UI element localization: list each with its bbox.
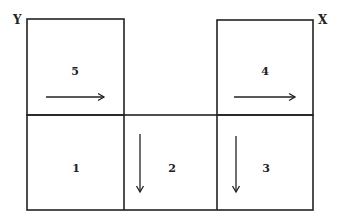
corner-label-x: X [318, 13, 328, 27]
arrow-down-icon-cell-3 [233, 136, 240, 192]
cell-label-2: 2 [168, 162, 176, 175]
cell-label-1: 1 [72, 162, 80, 175]
corner-label-y: Y [12, 13, 22, 27]
cell-label-4: 4 [261, 65, 269, 78]
block-diagram: Y X 5 4 1 2 3 [0, 0, 343, 223]
arrow-right-icon-cell-5 [46, 94, 104, 101]
arrow-down-icon-cell-2 [137, 134, 144, 192]
cell-label-5: 5 [71, 65, 79, 78]
cell-label-3: 3 [262, 162, 270, 175]
arrow-right-icon-cell-4 [234, 94, 295, 101]
